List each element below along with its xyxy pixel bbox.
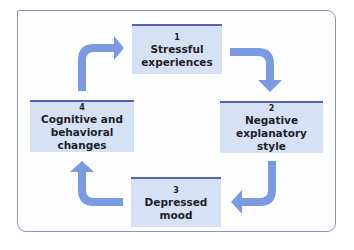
step-number: 3: [173, 185, 179, 196]
step-box-stressful-experiences: 1 Stressful experiences: [132, 24, 222, 74]
step-label-line: explanatory style: [220, 127, 323, 153]
step-number: 2: [269, 103, 275, 114]
step-box-negative-explanatory-style: 2 Negative explanatory style: [220, 101, 323, 153]
step-label-line: Cognitive and: [41, 113, 123, 126]
step-number: 1: [174, 32, 180, 43]
step-label-line: Negative: [245, 114, 298, 127]
step-label-line: mood: [160, 209, 193, 222]
step-label-line: Stressful: [150, 43, 203, 56]
step-box-cognitive-behavioral-changes: 4 Cognitive and behavioral changes: [30, 100, 134, 152]
step-label-line: behavioral changes: [30, 126, 134, 152]
step-label-line: Depressed: [145, 196, 208, 209]
step-label-line: experiences: [141, 56, 213, 69]
step-box-depressed-mood: 3 Depressed mood: [131, 177, 221, 227]
step-number: 4: [79, 102, 85, 113]
